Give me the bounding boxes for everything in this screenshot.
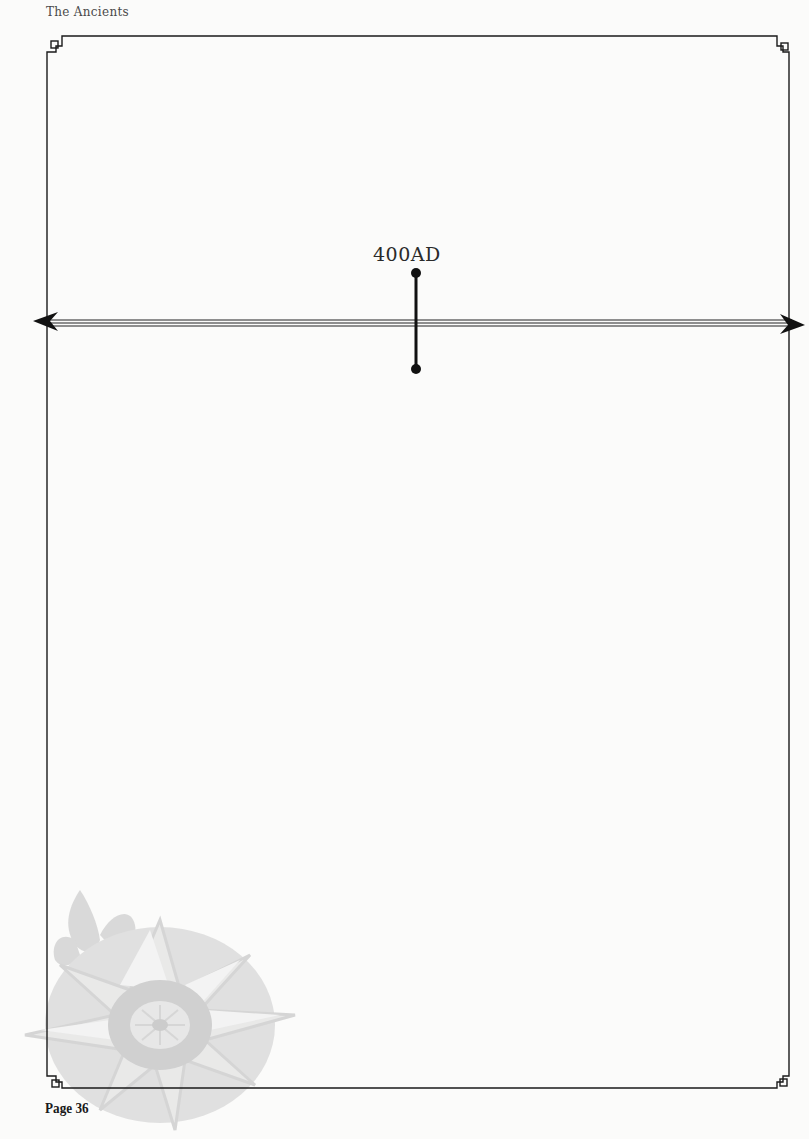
arrow-left-icon [33, 312, 58, 331]
compass-rose-watermark-icon [25, 890, 295, 1130]
running-header: The Ancients [46, 5, 129, 19]
document-page: The Ancients 400AD Page 36 [0, 0, 809, 1139]
page-number: Page 36 [45, 1100, 89, 1117]
timeline-axis [33, 268, 805, 374]
page-decorations [0, 0, 809, 1139]
arrow-right-icon [780, 314, 805, 334]
timeline-marker-label: 400AD [373, 243, 441, 265]
